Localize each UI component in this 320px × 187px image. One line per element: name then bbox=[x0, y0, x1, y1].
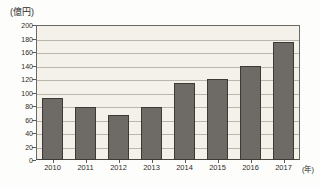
bar[interactable] bbox=[75, 107, 96, 160]
x-axis-tick-label: 2017 bbox=[275, 163, 292, 172]
bar-slot bbox=[36, 25, 69, 160]
bar[interactable] bbox=[207, 79, 228, 160]
bar[interactable] bbox=[273, 42, 294, 160]
x-axis-tick-labels: 20102011201220132014201520162017 bbox=[36, 163, 300, 177]
bar-slot bbox=[234, 25, 267, 160]
x-axis-tick-label: 2014 bbox=[176, 163, 193, 172]
bar[interactable] bbox=[108, 115, 129, 160]
bar-slot bbox=[102, 25, 135, 160]
bars-layer bbox=[36, 25, 300, 160]
bar-slot bbox=[69, 25, 102, 160]
bar-chart-figure: (億円) 020406080100120140160180200 2010201… bbox=[0, 0, 320, 187]
x-axis-tick-label: 2015 bbox=[209, 163, 226, 172]
x-axis-tick-label: 2010 bbox=[44, 163, 61, 172]
bar[interactable] bbox=[240, 66, 261, 161]
bar-slot bbox=[201, 25, 234, 160]
x-axis-tick-label: 2011 bbox=[77, 163, 93, 172]
bar[interactable] bbox=[174, 83, 195, 160]
x-axis-tick-label: 2013 bbox=[143, 163, 160, 172]
bar[interactable] bbox=[141, 107, 162, 160]
bar-slot bbox=[135, 25, 168, 160]
y-axis-tick-labels: 020406080100120140160180200 bbox=[8, 25, 33, 160]
y-axis-unit-label: (億円) bbox=[10, 5, 34, 18]
x-axis-tick-label: 2016 bbox=[242, 163, 259, 172]
bar[interactable] bbox=[42, 98, 63, 160]
bar-slot bbox=[267, 25, 300, 160]
x-axis-unit-label: (年) bbox=[302, 163, 314, 174]
x-axis-tick-label: 2012 bbox=[110, 163, 127, 172]
bar-slot bbox=[168, 25, 201, 160]
